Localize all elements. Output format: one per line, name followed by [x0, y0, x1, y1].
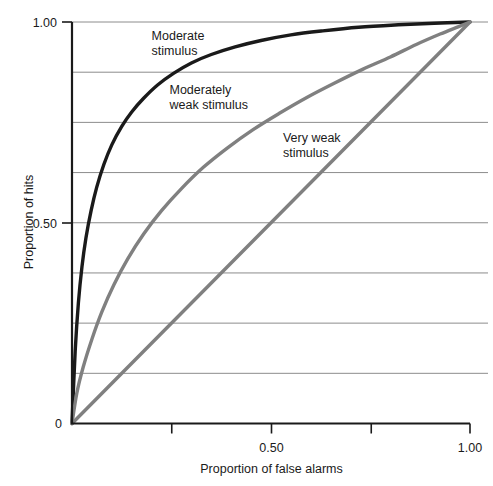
y-axis-title: Proportion of hits	[22, 175, 36, 270]
chart-canvas: 1.00 0.50 0 0.50 1.00 Proportion of fals…	[0, 0, 493, 486]
y-tick-label-050: 0.50	[33, 217, 57, 231]
x-tick-label-100: 1.00	[458, 441, 482, 455]
curve-label-line: stimulus	[283, 146, 329, 160]
y-tick-label-0: 0	[55, 417, 62, 431]
curve-label-line: Moderate	[152, 29, 205, 43]
roc-chart-figure: 1.00 0.50 0 0.50 1.00 Proportion of fals…	[0, 0, 493, 486]
x-tick-label-050: 0.50	[259, 441, 283, 455]
curve-label-moderate-stimulus: Moderatestimulus	[152, 29, 205, 58]
curve-label-line: stimulus	[152, 44, 198, 58]
x-axis-title: Proportion of false alarms	[200, 462, 342, 476]
curve-label-line: weak stimulus	[169, 98, 249, 112]
curve-label-line: Moderately	[170, 83, 233, 97]
curve-label-line: Very weak	[283, 131, 341, 145]
y-tick-label-100: 1.00	[33, 16, 57, 30]
